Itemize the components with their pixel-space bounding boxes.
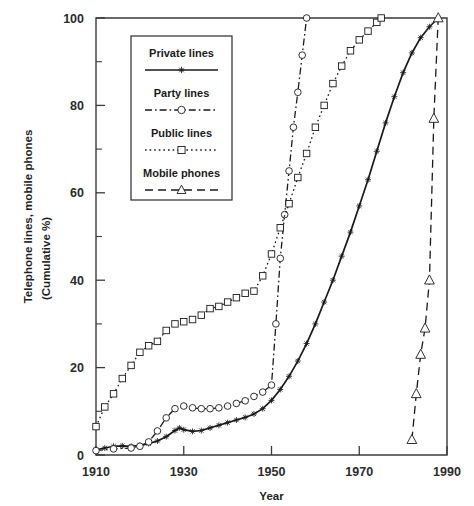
marker-star — [269, 397, 275, 403]
marker-star — [119, 443, 125, 449]
marker-star — [251, 411, 257, 417]
marker-square — [110, 391, 116, 397]
marker-square — [330, 80, 336, 86]
marker-circle — [137, 443, 144, 450]
marker-star — [409, 50, 415, 56]
marker-circle — [93, 447, 100, 454]
marker-square — [181, 318, 187, 324]
marker-triangle — [407, 434, 417, 443]
marker-star — [391, 94, 397, 100]
marker-star — [426, 24, 432, 30]
marker-star — [172, 428, 178, 434]
marker-square — [312, 124, 318, 130]
marker-star — [216, 422, 222, 428]
marker-circle — [128, 445, 135, 452]
marker-square — [233, 294, 239, 300]
marker-square — [338, 63, 344, 69]
marker-circle — [277, 255, 284, 262]
marker-square — [242, 290, 248, 296]
marker-square — [224, 299, 230, 305]
marker-star — [347, 229, 353, 235]
marker-star — [154, 438, 160, 444]
y-tick-label: 20 — [70, 361, 84, 375]
marker-square — [259, 273, 265, 279]
chart-figure: 02040608010019101930195019701990 YearTel… — [0, 0, 474, 506]
x-tick-label: 1970 — [345, 465, 373, 479]
marker-triangle — [411, 389, 421, 398]
y-tick-label: 0 — [77, 449, 84, 463]
marker-triangle — [433, 13, 443, 22]
chart-legend[interactable]: Private linesParty linesPublic linesMobi… — [131, 36, 232, 200]
marker-star — [198, 428, 204, 434]
marker-circle — [178, 106, 185, 113]
marker-circle — [233, 400, 240, 407]
marker-circle — [224, 403, 231, 410]
marker-circle — [207, 405, 214, 412]
marker-circle — [189, 404, 196, 411]
marker-circle — [145, 439, 152, 446]
marker-square — [119, 375, 125, 381]
marker-square — [137, 349, 143, 355]
legend-label: Mobile phones — [143, 167, 220, 179]
marker-square — [286, 200, 292, 206]
marker-circle — [273, 321, 280, 328]
marker-square — [102, 404, 108, 410]
x-tick-label: 1990 — [433, 465, 461, 479]
x-axis-title: Year — [259, 490, 284, 502]
marker-triangle — [429, 113, 439, 122]
marker-star — [260, 406, 266, 412]
marker-square — [216, 303, 222, 309]
x-tick-label: 1910 — [82, 465, 110, 479]
marker-star — [356, 203, 362, 209]
marker-star — [286, 373, 292, 379]
marker-square — [128, 362, 134, 368]
marker-circle — [251, 393, 258, 400]
marker-star — [233, 417, 239, 423]
y-tick-label: 100 — [63, 12, 84, 26]
y-axis-title: Telephone lines, mobile phones — [22, 130, 34, 304]
marker-star — [418, 35, 424, 41]
marker-square — [93, 423, 99, 429]
marker-square — [172, 321, 178, 327]
marker-square — [295, 174, 301, 180]
marker-square — [178, 146, 185, 153]
marker-square — [365, 28, 371, 34]
marker-circle — [172, 405, 179, 412]
marker-square — [347, 48, 353, 54]
marker-square — [251, 288, 257, 294]
marker-circle — [180, 403, 187, 410]
marker-circle — [290, 124, 297, 131]
marker-square — [198, 312, 204, 318]
marker-square — [145, 343, 151, 349]
marker-star — [242, 414, 248, 420]
marker-square — [163, 327, 169, 333]
marker-circle — [259, 389, 266, 396]
y-axis-title-units: (Cumulative %) — [40, 217, 52, 300]
marker-star — [304, 341, 310, 347]
y-tick-label: 40 — [70, 274, 84, 288]
marker-square — [303, 150, 309, 156]
marker-star — [365, 177, 371, 183]
marker-star — [295, 358, 301, 364]
y-tick-label: 80 — [70, 99, 84, 113]
marker-square — [378, 15, 384, 21]
marker-star — [190, 428, 196, 434]
marker-triangle — [420, 323, 430, 332]
x-tick-label: 1950 — [258, 465, 286, 479]
marker-circle — [216, 404, 223, 411]
marker-star — [330, 277, 336, 283]
marker-circle — [110, 446, 117, 453]
marker-square — [277, 225, 283, 231]
marker-circle — [268, 382, 275, 389]
marker-star — [400, 70, 406, 76]
x-tick-label: 1930 — [170, 465, 198, 479]
marker-star — [321, 299, 327, 305]
marker-square — [268, 251, 274, 257]
marker-star — [277, 386, 283, 392]
line-chart: 02040608010019101930195019701990 YearTel… — [0, 0, 474, 506]
marker-star — [312, 321, 318, 327]
marker-circle — [299, 52, 306, 59]
marker-star — [181, 427, 187, 433]
legend-label: Private lines — [149, 47, 214, 59]
marker-star — [374, 148, 380, 154]
